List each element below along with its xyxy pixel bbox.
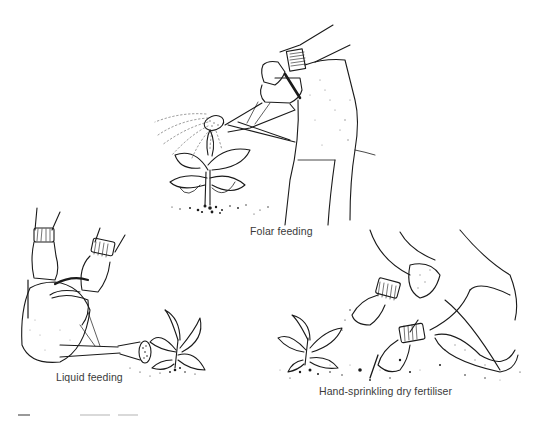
liquid-feeding-illustration — [0, 200, 230, 400]
liquid-feeding-caption: Liquid feeding — [56, 371, 123, 383]
dry-fertiliser-scene — [270, 220, 550, 390]
dry-fertiliser-caption: Hand-sprinkling dry fertiliser — [319, 385, 452, 397]
cropped-footer-text — [18, 414, 138, 418]
dry-fertiliser-illustration — [270, 220, 550, 390]
liquid-feeding-scene — [0, 200, 230, 400]
